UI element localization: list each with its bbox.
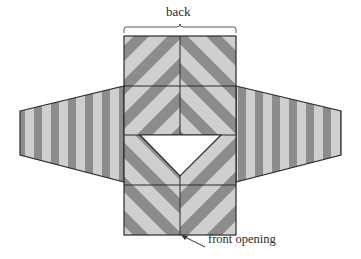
sleeve-left — [20, 86, 124, 182]
body-front-lower-right — [180, 185, 236, 235]
body-back-lower-left — [124, 86, 180, 135]
back-bracket — [124, 24, 236, 33]
front-opening-arrow — [181, 235, 205, 247]
sleeve-right — [236, 86, 341, 182]
body-back-upper-right — [180, 36, 236, 86]
garment-pattern-diagram — [0, 0, 361, 259]
body-back-upper-left — [124, 36, 180, 86]
front-opening-label: front opening — [208, 232, 276, 247]
body-back-lower-right — [180, 86, 236, 135]
back-label: back — [166, 4, 191, 20]
body-front-lower-left — [124, 185, 180, 235]
